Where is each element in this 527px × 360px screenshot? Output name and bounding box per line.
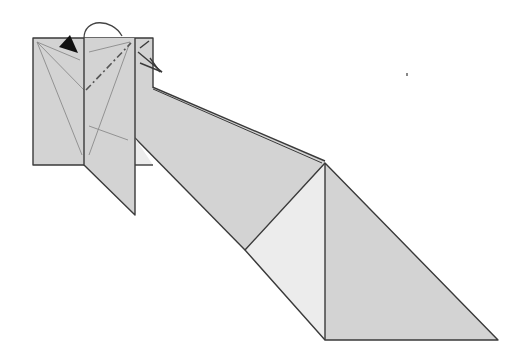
origami-diagram bbox=[0, 0, 527, 360]
stray-mark bbox=[406, 73, 408, 76]
fold-arrow-icon bbox=[84, 23, 122, 38]
